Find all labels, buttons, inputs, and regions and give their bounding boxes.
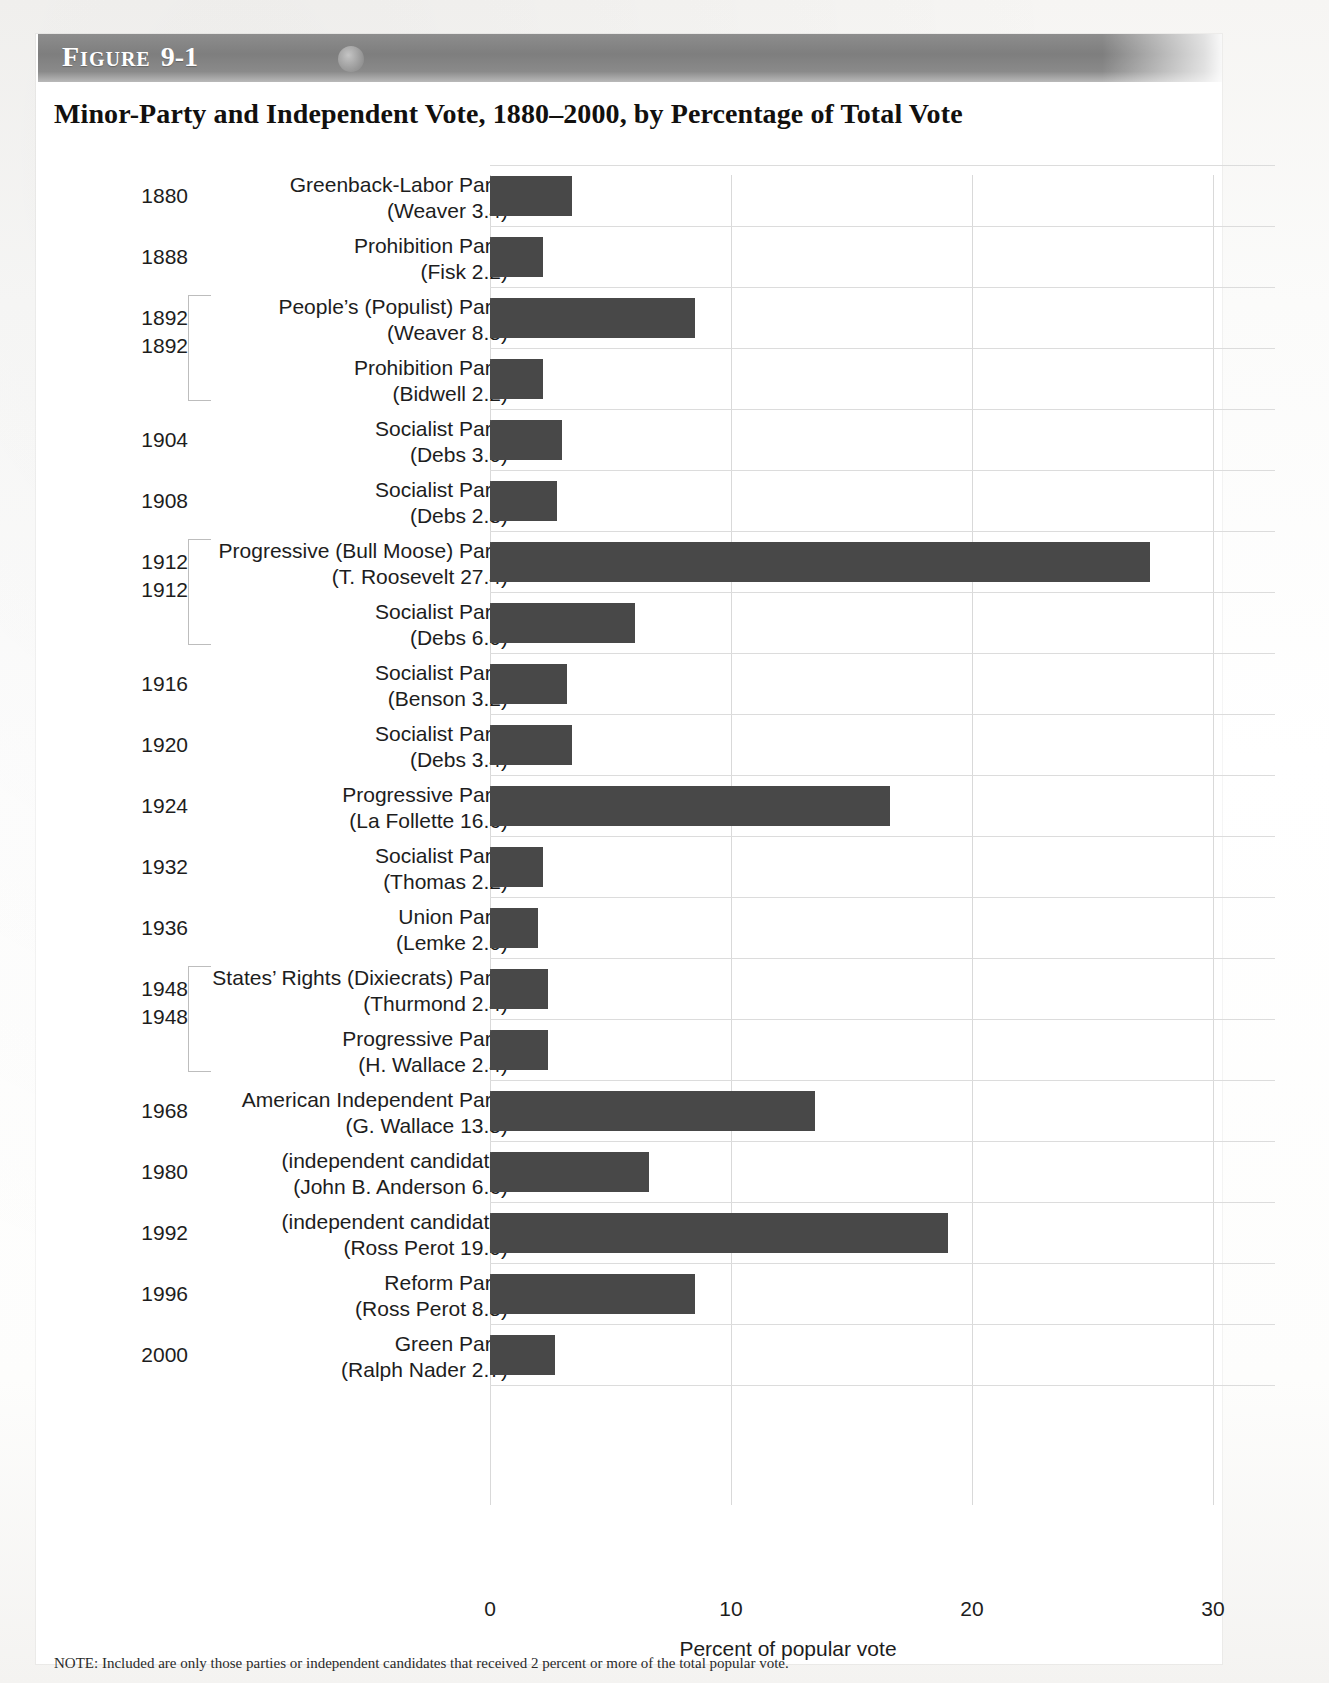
row-party-name: Progressive Party xyxy=(78,782,508,808)
bar xyxy=(490,725,572,765)
row-party-name: Socialist Party xyxy=(78,660,508,686)
row-candidate-value: (Debs 3.0) xyxy=(78,442,508,468)
row-party-name: (independent candidate) xyxy=(78,1148,508,1174)
row-separator xyxy=(490,836,1275,837)
row-party-label: Socialist Party(Thomas 2.2) xyxy=(78,843,508,894)
row-party-label: Prohibition Party(Bidwell 2.2) xyxy=(78,355,508,406)
bar xyxy=(490,298,695,338)
row-separator xyxy=(490,1324,1275,1325)
chart-row: 1920Socialist Party(Debs 3.4) xyxy=(38,714,1222,775)
bar xyxy=(490,847,543,887)
row-party-label: Progressive Party(La Follette 16.6) xyxy=(78,782,508,833)
row-separator xyxy=(490,1263,1275,1264)
bar xyxy=(490,237,543,277)
chart-row: 1980(independent candidate)(John B. Ande… xyxy=(38,1141,1222,1202)
chart-row: 2000Green Party(Ralph Nader 2.7) xyxy=(38,1324,1222,1385)
row-candidate-value: (G. Wallace 13.5) xyxy=(78,1113,508,1139)
group-year-label: 1948 xyxy=(98,1005,188,1029)
x-tick-label: 10 xyxy=(719,1597,742,1621)
group-year-label: 1892 xyxy=(98,334,188,358)
row-separator xyxy=(490,1385,1275,1386)
row-candidate-value: (John B. Anderson 6.6) xyxy=(78,1174,508,1200)
x-tick-label: 30 xyxy=(1201,1597,1224,1621)
bar xyxy=(490,908,538,948)
row-party-name: Socialist Party xyxy=(78,477,508,503)
row-party-name: People’s (Populist) Party xyxy=(78,294,508,320)
bar xyxy=(490,664,567,704)
bar xyxy=(490,969,548,1009)
row-candidate-value: (Thomas 2.2) xyxy=(78,869,508,895)
row-separator xyxy=(490,592,1275,593)
row-party-name: Greenback-Labor Party xyxy=(78,172,508,198)
x-axis-ticks: 0102030 xyxy=(38,1597,1222,1627)
group-year-label: 1912 xyxy=(98,578,188,602)
row-party-label: Union Party(Lemke 2.0) xyxy=(78,904,508,955)
row-party-name: Prohibition Party xyxy=(78,355,508,381)
chart-row: 1904Socialist Party(Debs 3.0) xyxy=(38,409,1222,470)
chart-row: 1936Union Party(Lemke 2.0) xyxy=(38,897,1222,958)
figure-note: NOTE: Included are only those parties or… xyxy=(54,1655,1174,1679)
row-candidate-value: (Lemke 2.0) xyxy=(78,930,508,956)
x-tick-label: 20 xyxy=(960,1597,983,1621)
year-group-bracket xyxy=(188,966,211,1072)
row-party-label: Green Party(Ralph Nader 2.7) xyxy=(78,1331,508,1382)
row-candidate-value: (Debs 3.4) xyxy=(78,747,508,773)
row-separator xyxy=(490,714,1275,715)
row-candidate-value: (Fisk 2.2) xyxy=(78,259,508,285)
row-party-name: States’ Rights (Dixiecrats) Party xyxy=(78,965,508,991)
row-party-label: Socialist Party(Debs 2.8) xyxy=(78,477,508,528)
row-party-name: Socialist Party xyxy=(78,843,508,869)
row-party-label: American Independent Party(G. Wallace 13… xyxy=(78,1087,508,1138)
chart-row: 1992(independent candidate)(Ross Perot 1… xyxy=(38,1202,1222,1263)
bar xyxy=(490,1335,555,1375)
row-party-name: Socialist Party xyxy=(78,721,508,747)
row-separator xyxy=(490,1141,1275,1142)
row-party-name: Socialist Party xyxy=(78,416,508,442)
row-party-label: (independent candidate)(John B. Anderson… xyxy=(78,1148,508,1199)
row-candidate-value: (Ross Perot 8.5) xyxy=(78,1296,508,1322)
row-party-label: Reform Party(Ross Perot 8.5) xyxy=(78,1270,508,1321)
chart-row: Socialist Party(Debs 6.0) xyxy=(38,592,1222,653)
bar xyxy=(490,786,890,826)
row-party-label: Progressive Party(H. Wallace 2.4) xyxy=(78,1026,508,1077)
bar xyxy=(490,1274,695,1314)
chart-row: 1968American Independent Party(G. Wallac… xyxy=(38,1080,1222,1141)
row-separator xyxy=(490,958,1275,959)
banner-dot-icon xyxy=(338,46,364,72)
row-separator xyxy=(490,775,1275,776)
x-tick-label: 0 xyxy=(484,1597,496,1621)
chart-row: 1948States’ Rights (Dixiecrats) Party(Th… xyxy=(38,958,1222,1019)
bar xyxy=(490,1152,649,1192)
row-separator xyxy=(490,1202,1275,1203)
bar xyxy=(490,481,557,521)
figure-banner: Figure9-1 xyxy=(38,34,1222,82)
bar xyxy=(490,176,572,216)
row-party-name: Progressive Party xyxy=(78,1026,508,1052)
year-group-bracket xyxy=(188,539,211,645)
chart-row: 1888Prohibition Party(Fisk 2.2) xyxy=(38,226,1222,287)
row-separator xyxy=(490,226,1275,227)
chart-row: 1880Greenback-Labor Party(Weaver 3.4) xyxy=(38,165,1222,226)
chart-row: 1996Reform Party(Ross Perot 8.5) xyxy=(38,1263,1222,1324)
row-party-label: Socialist Party(Debs 6.0) xyxy=(78,599,508,650)
row-separator xyxy=(490,1080,1275,1081)
chart-rows: 1880Greenback-Labor Party(Weaver 3.4)188… xyxy=(38,165,1222,1385)
row-party-label: Socialist Party(Benson 3.2) xyxy=(78,660,508,711)
row-party-name: Socialist Party xyxy=(78,599,508,625)
row-party-name: Union Party xyxy=(78,904,508,930)
chart-row: 1924Progressive Party(La Follette 16.6) xyxy=(38,775,1222,836)
row-party-label: Greenback-Labor Party(Weaver 3.4) xyxy=(78,172,508,223)
figure-banner-number: 9-1 xyxy=(161,41,198,72)
row-party-name: Reform Party xyxy=(78,1270,508,1296)
row-separator xyxy=(490,653,1275,654)
chart-row: Prohibition Party(Bidwell 2.2) xyxy=(38,348,1222,409)
year-group-bracket xyxy=(188,295,211,401)
row-party-name: Prohibition Party xyxy=(78,233,508,259)
chart-row: 1912Progressive (Bull Moose) Party(T. Ro… xyxy=(38,531,1222,592)
row-party-label: Prohibition Party(Fisk 2.2) xyxy=(78,233,508,284)
row-party-name: Progressive (Bull Moose) Party xyxy=(78,538,508,564)
bar xyxy=(490,542,1150,582)
bar xyxy=(490,359,543,399)
row-separator xyxy=(490,348,1275,349)
bar xyxy=(490,420,562,460)
